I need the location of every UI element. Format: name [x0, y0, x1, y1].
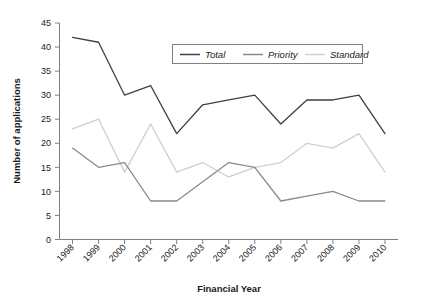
x-axis-title: Financial Year [197, 283, 261, 294]
y-tick-label: 30 [41, 90, 51, 100]
y-tick-group: 051015202530354045 [41, 18, 60, 245]
legend-label-standard: Standard [330, 49, 369, 60]
chart-legend: TotalPriorityStandard [173, 45, 370, 64]
x-tick-label: 2006 [263, 242, 284, 263]
line-chart: 051015202530354045 199819992000200120022… [0, 0, 421, 305]
y-tick-label: 45 [41, 18, 51, 28]
x-tick-label: 2008 [315, 242, 336, 263]
x-tick-label: 2005 [237, 242, 258, 263]
x-tick-label: 2002 [159, 242, 180, 263]
y-tick-label: 20 [41, 138, 51, 148]
x-tick-label: 2003 [185, 242, 206, 263]
chart-canvas: 051015202530354045 199819992000200120022… [0, 0, 421, 305]
x-tick-label: 2004 [211, 242, 232, 263]
y-tick-label: 5 [46, 211, 51, 221]
x-tick-group: 1998199920002001200220032004200520062007… [55, 240, 389, 264]
y-axis-title: Number of applications [11, 78, 22, 184]
series-line-standard [73, 119, 385, 177]
x-tick-label: 1999 [81, 242, 102, 263]
series-line-priority [73, 148, 385, 201]
y-tick-label: 0 [46, 235, 51, 245]
x-tick-label: 2007 [289, 242, 310, 263]
y-tick-label: 10 [41, 187, 51, 197]
y-tick-label: 40 [41, 42, 51, 52]
y-tick-label: 25 [41, 114, 51, 124]
y-tick-label: 15 [41, 163, 51, 173]
legend-label-total: Total [205, 49, 226, 60]
x-tick-label: 2001 [133, 242, 154, 263]
x-tick-label: 2010 [367, 242, 388, 263]
y-tick-label: 35 [41, 66, 51, 76]
x-tick-label: 1998 [55, 242, 76, 263]
x-tick-label: 2009 [341, 242, 362, 263]
x-tick-label: 2000 [107, 242, 128, 263]
legend-label-priority: Priority [268, 49, 299, 60]
